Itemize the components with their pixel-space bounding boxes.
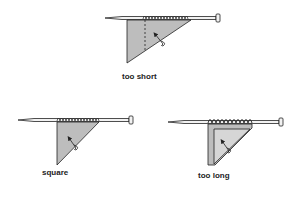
swatch-triangle: [57, 122, 99, 165]
label-too-short: too short: [122, 72, 157, 81]
label-square: square: [42, 168, 68, 177]
panel-square: [18, 116, 133, 165]
clipped-caption: [18, 196, 148, 200]
swatch-triangle: [127, 20, 191, 63]
panel-too-short: [105, 14, 220, 63]
label-too-long: too long: [198, 171, 230, 180]
panel-too-long: [168, 118, 283, 165]
swatch-triangle: [214, 129, 250, 164]
